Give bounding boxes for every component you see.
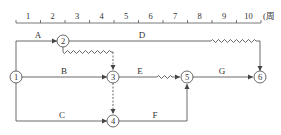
tick-9: 9 bbox=[222, 11, 226, 21]
node-label-6: 6 bbox=[258, 72, 262, 82]
unit-label: (周 bbox=[263, 11, 275, 21]
dummy-2-3-wavy bbox=[63, 47, 113, 54]
node-label-5: 5 bbox=[185, 72, 189, 82]
activity-E-line bbox=[119, 76, 180, 79]
tick-3: 3 bbox=[75, 11, 79, 21]
node-label-2: 2 bbox=[61, 36, 65, 46]
activity-A-line bbox=[16, 41, 57, 74]
activity-label-G: G bbox=[219, 66, 226, 76]
time-scale: 1 2 3 4 5 6 7 8 9 10 (周 bbox=[16, 11, 275, 23]
activity-label-E: E bbox=[137, 66, 143, 76]
tick-4: 4 bbox=[99, 11, 104, 21]
node-label-3: 3 bbox=[111, 72, 115, 82]
tick-7: 7 bbox=[173, 11, 177, 21]
tick-2: 2 bbox=[50, 11, 54, 21]
activity-label-C: C bbox=[59, 110, 65, 120]
node-label-1: 1 bbox=[14, 72, 18, 82]
tick-1: 1 bbox=[26, 11, 30, 21]
tick-5: 5 bbox=[124, 11, 128, 21]
tick-8: 8 bbox=[197, 11, 201, 21]
time-scaled-network-diagram: 1 2 3 4 5 6 7 8 9 10 (周 A B C D E bbox=[0, 0, 281, 135]
activity-label-B: B bbox=[61, 66, 67, 76]
activity-label-A: A bbox=[35, 30, 42, 40]
tick-6: 6 bbox=[148, 11, 152, 21]
activity-label-D: D bbox=[139, 30, 146, 40]
activity-label-F: F bbox=[152, 110, 157, 120]
tick-10: 10 bbox=[244, 11, 253, 21]
